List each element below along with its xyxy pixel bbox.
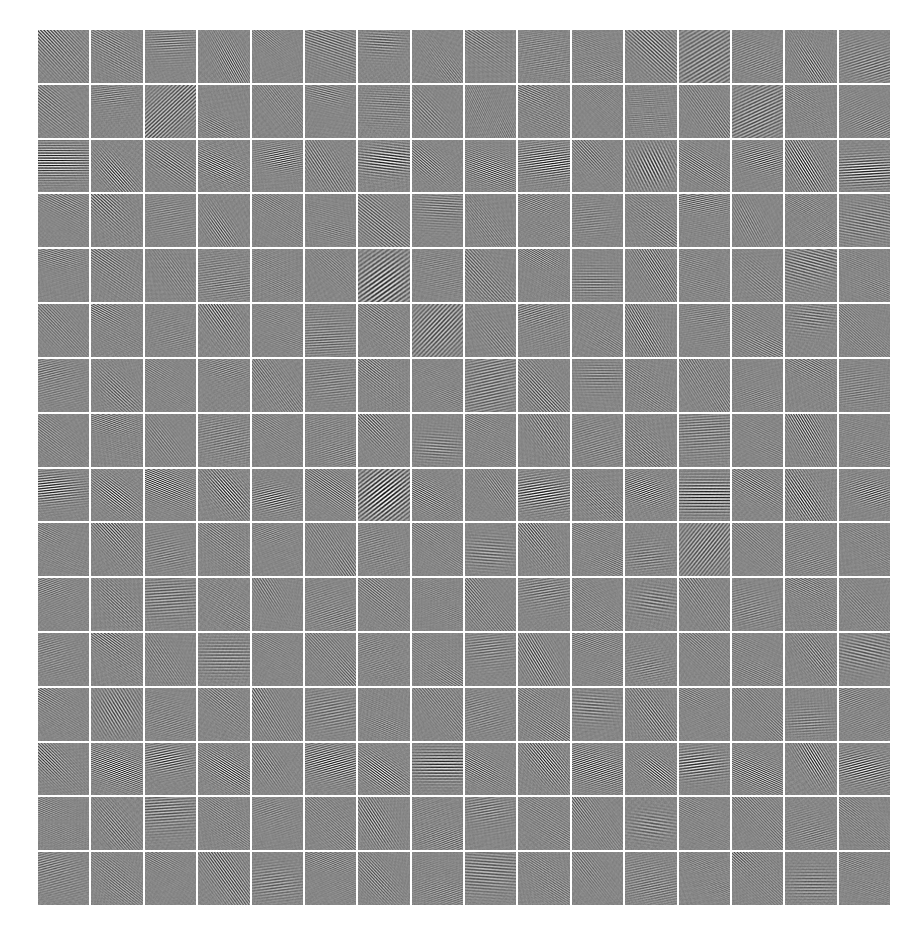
patch-canvas <box>412 85 463 138</box>
patch-cell <box>145 852 196 905</box>
patch-cell <box>358 30 409 83</box>
patch-cell <box>785 578 836 631</box>
patch-cell <box>518 469 569 522</box>
patch-cell <box>198 688 249 741</box>
patch-canvas <box>252 30 303 83</box>
patch-canvas <box>252 85 303 138</box>
patch-canvas <box>412 688 463 741</box>
patch-cell <box>91 85 142 138</box>
patch-canvas <box>679 194 730 247</box>
patch-cell <box>465 249 516 302</box>
patch-canvas <box>465 30 516 83</box>
patch-canvas <box>358 414 409 467</box>
patch-cell <box>518 523 569 576</box>
patch-cell <box>252 30 303 83</box>
patch-canvas <box>38 633 89 686</box>
patch-canvas <box>252 249 303 302</box>
patch-canvas <box>38 249 89 302</box>
patch-canvas <box>91 852 142 905</box>
patch-canvas <box>625 249 676 302</box>
patch-canvas <box>145 469 196 522</box>
patch-canvas <box>625 743 676 796</box>
patch-canvas <box>252 414 303 467</box>
patch-canvas <box>38 523 89 576</box>
patch-canvas <box>625 359 676 412</box>
patch-cell <box>518 852 569 905</box>
patch-canvas <box>252 304 303 357</box>
patch-canvas <box>145 414 196 467</box>
patch-canvas <box>839 304 890 357</box>
patch-cell <box>91 852 142 905</box>
patch-cell <box>252 140 303 193</box>
patch-cell <box>412 414 463 467</box>
patch-cell <box>252 688 303 741</box>
patch-canvas <box>305 249 356 302</box>
patch-cell <box>91 359 142 412</box>
patch-canvas <box>358 85 409 138</box>
patch-canvas <box>785 743 836 796</box>
patch-cell <box>679 194 730 247</box>
patch-canvas <box>839 194 890 247</box>
patch-canvas <box>252 359 303 412</box>
patch-cell <box>732 852 783 905</box>
patch-cell <box>252 469 303 522</box>
patch-cell <box>572 797 623 850</box>
patch-canvas <box>839 140 890 193</box>
patch-canvas <box>839 414 890 467</box>
patch-canvas <box>145 523 196 576</box>
patch-cell <box>679 633 730 686</box>
patch-canvas <box>198 523 249 576</box>
patch-canvas <box>358 688 409 741</box>
patch-cell <box>625 469 676 522</box>
patch-cell <box>518 249 569 302</box>
patch-cell <box>252 414 303 467</box>
patch-canvas <box>358 523 409 576</box>
patch-cell <box>305 85 356 138</box>
patch-canvas <box>305 523 356 576</box>
patch-canvas <box>198 469 249 522</box>
patch-canvas <box>412 30 463 83</box>
patch-canvas <box>572 304 623 357</box>
patch-cell <box>839 797 890 850</box>
patch-canvas <box>38 194 89 247</box>
patch-cell <box>198 194 249 247</box>
patch-canvas <box>625 797 676 850</box>
patch-cell <box>785 633 836 686</box>
patch-canvas <box>465 797 516 850</box>
patch-canvas <box>91 414 142 467</box>
patch-cell <box>38 578 89 631</box>
patch-canvas <box>145 578 196 631</box>
patch-canvas <box>465 359 516 412</box>
patch-cell <box>679 743 730 796</box>
patch-cell <box>785 743 836 796</box>
patch-cell <box>305 633 356 686</box>
patch-cell <box>465 414 516 467</box>
patch-canvas <box>518 140 569 193</box>
patch-cell <box>252 85 303 138</box>
patch-canvas <box>785 414 836 467</box>
patch-canvas <box>145 194 196 247</box>
patch-cell <box>785 140 836 193</box>
patch-cell <box>252 194 303 247</box>
patch-cell <box>198 85 249 138</box>
patch-cell <box>625 852 676 905</box>
patch-canvas <box>785 523 836 576</box>
patch-canvas <box>572 249 623 302</box>
patch-canvas <box>358 743 409 796</box>
patch-canvas <box>38 30 89 83</box>
patch-canvas <box>145 743 196 796</box>
patch-cell <box>679 797 730 850</box>
patch-canvas <box>198 359 249 412</box>
patch-canvas <box>38 852 89 905</box>
patch-canvas <box>839 469 890 522</box>
patch-cell <box>839 249 890 302</box>
patch-cell <box>252 249 303 302</box>
patch-cell <box>358 797 409 850</box>
patch-canvas <box>465 523 516 576</box>
patch-canvas <box>38 469 89 522</box>
patch-canvas <box>412 852 463 905</box>
patch-cell <box>252 633 303 686</box>
patch-cell <box>412 578 463 631</box>
patch-canvas <box>625 140 676 193</box>
patch-cell <box>839 30 890 83</box>
